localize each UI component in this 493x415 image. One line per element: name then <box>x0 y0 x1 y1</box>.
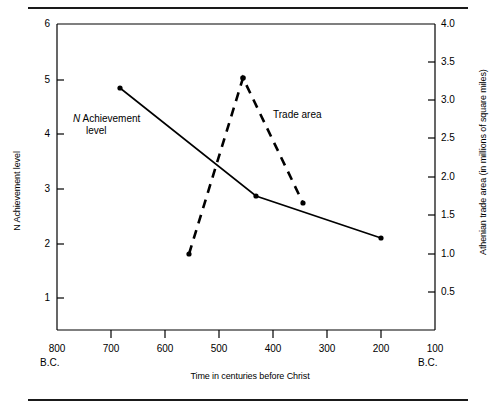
ytick-right-1-0: 1.0 <box>441 248 467 259</box>
data-point <box>378 235 383 240</box>
data-point <box>186 251 191 256</box>
ytick-right-2-5: 2.5 <box>441 132 467 143</box>
ytick-right-2-0: 2.0 <box>441 171 467 182</box>
data-point <box>300 200 305 205</box>
y-axis-left-title: N Achievement level <box>12 126 22 256</box>
annotation-achievement-prefix: N <box>73 113 80 124</box>
annotation-achievement-line2: level <box>86 125 107 136</box>
xtick-700: 700 <box>91 343 131 354</box>
ytick-left-5: 5 <box>28 74 50 85</box>
data-point <box>240 75 246 81</box>
ytick-right-0-5: 0.5 <box>441 286 467 297</box>
xtick-400: 400 <box>253 343 293 354</box>
left-axis-ticks <box>57 80 64 298</box>
xtick-300: 300 <box>307 343 347 354</box>
data-point <box>117 85 122 90</box>
xtick-800: 800 <box>37 343 77 354</box>
ytick-left-1: 1 <box>28 292 50 303</box>
y-axis-right-title: Athenian trade area (in millions of squa… <box>478 75 488 255</box>
ytick-right-3-5: 3.5 <box>441 56 467 67</box>
ytick-left-2: 2 <box>28 238 50 249</box>
right-axis-ticks <box>428 62 435 292</box>
ytick-right-1-5: 1.5 <box>441 209 467 220</box>
ytick-left-4: 4 <box>28 128 50 139</box>
annotation-achievement-line1: Achievement <box>82 113 140 124</box>
ytick-right-3-0: 3.0 <box>441 94 467 105</box>
series-achievement-line <box>117 85 383 240</box>
chart-figure: 6 5 4 3 2 1 4.0 3.5 3.0 2.5 2.0 1.5 1.0 … <box>0 0 493 415</box>
ytick-left-3: 3 <box>28 183 50 194</box>
xtick-100: 100 <box>415 343 455 354</box>
x-axis-title: Time in centuries before Christ <box>160 371 340 381</box>
annotation-achievement: N Achievement level <box>73 113 140 137</box>
era-label-right: B.C. <box>418 357 437 368</box>
data-point <box>253 193 258 198</box>
axis-frame <box>57 24 435 330</box>
era-label-left: B.C. <box>40 357 59 368</box>
annotation-trade-area: Trade area <box>273 109 322 121</box>
ytick-right-4-0: 4.0 <box>441 18 467 29</box>
ytick-left-6: 6 <box>28 18 50 29</box>
x-axis-ticks <box>111 330 381 338</box>
series-trade-area-line <box>186 75 305 256</box>
xtick-200: 200 <box>361 343 401 354</box>
xtick-500: 500 <box>199 343 239 354</box>
xtick-600: 600 <box>145 343 185 354</box>
